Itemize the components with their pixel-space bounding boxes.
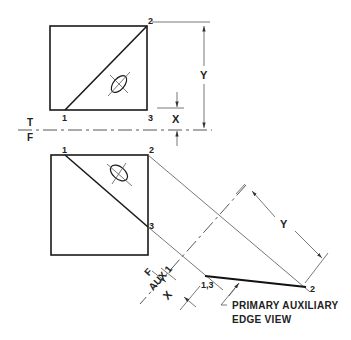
callout-line-2: EDGE VIEW [232,314,292,325]
front-view-square [51,155,148,255]
aux-y-dimension-label: Y [280,218,288,230]
callout-line-1: PRIMARY AUXILIARY [232,300,339,311]
top-view: 2 1 3 [50,16,153,123]
top-y-dimension-label: Y [200,69,208,81]
edge-view-line [205,276,306,287]
top-view-square [50,26,147,110]
top-point-3-label: 3 [148,113,153,123]
aux-point-13-label: 1,3 [201,280,214,290]
top-x-dimension: X [157,92,184,146]
aux-fold-line: F AUX 1 [137,185,246,304]
top-view-hole-symbol [108,72,130,96]
top-x-dimension-label: X [172,113,180,125]
front-point-2-label: 2 [149,145,154,155]
fold-label-f: F [27,132,33,143]
edge-view-callout: PRIMARY AUXILIARY EDGE VIEW [221,283,339,325]
front-view-diagonal [65,155,148,227]
front-view: 1 2 3 [51,145,154,255]
aux-point-2-label: 2 [310,284,315,294]
top-point-1-label: 1 [62,113,67,123]
aux-x-dimension-label: X [160,288,174,302]
aux-fold-label-f: F [142,266,154,278]
top-y-dimension: Y [152,22,210,128]
aux-edge-view: 1,3 2 [201,276,315,294]
tf-fold-line: T F [18,117,212,143]
top-point-2-label: 2 [148,16,153,26]
front-view-hole-symbol [107,162,132,186]
fold-label-t: T [27,117,33,128]
top-view-diagonal [65,26,147,110]
front-point-1-label: 1 [62,145,67,155]
descriptive-geometry-drawing: 2 1 3 Y X T F 1 2 3 [0,0,351,340]
